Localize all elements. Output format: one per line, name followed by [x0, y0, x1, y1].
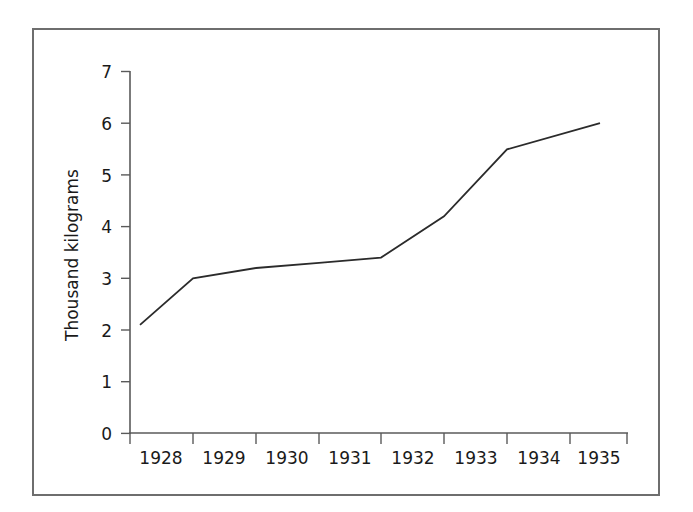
x-tick-label-1930: 1930 [265, 448, 308, 468]
chart-figure: 7 6 5 4 3 2 1 0 1928 1929 1930 1931 1932… [0, 0, 693, 512]
y-axis-ticks [121, 72, 130, 434]
x-tick-label-1935: 1935 [577, 448, 620, 468]
y-tick-label-4: 4 [101, 217, 112, 237]
x-tick-label-1928: 1928 [139, 448, 182, 468]
y-tick-label-7: 7 [101, 62, 112, 82]
x-tick-label-1929: 1929 [202, 448, 245, 468]
y-tick-label-3: 3 [101, 269, 112, 289]
y-tick-label-5: 5 [101, 166, 112, 186]
x-tick-label-1934: 1934 [517, 448, 560, 468]
y-tick-label-1: 1 [101, 372, 112, 392]
x-tick-labels: 1928 1929 1930 1931 1932 1933 1934 1935 [139, 448, 620, 468]
x-axis-ticks [130, 433, 627, 444]
x-tick-label-1932: 1932 [391, 448, 434, 468]
x-tick-label-1931: 1931 [328, 448, 371, 468]
y-tick-label-2: 2 [101, 321, 112, 341]
data-series-line [140, 123, 600, 325]
x-tick-label-1933: 1933 [454, 448, 497, 468]
line-chart-plot: 7 6 5 4 3 2 1 0 1928 1929 1930 1931 1932… [0, 0, 693, 512]
y-tick-labels: 7 6 5 4 3 2 1 0 [101, 62, 112, 444]
y-axis-title: Thousand kilograms [62, 169, 82, 342]
y-tick-label-6: 6 [101, 114, 112, 134]
y-tick-label-0: 0 [101, 424, 112, 444]
